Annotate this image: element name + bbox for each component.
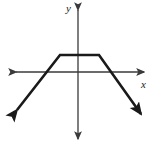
coordinate-plane-svg: x y (0, 0, 155, 150)
function-curve (17, 55, 141, 114)
x-axis-label: x (140, 78, 146, 90)
graph-figure: x y (0, 0, 155, 150)
y-axis-label: y (65, 2, 71, 14)
